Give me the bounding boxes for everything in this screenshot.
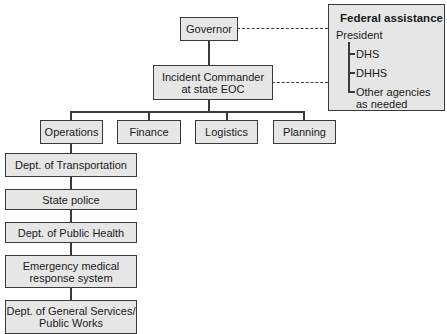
ic-label-line1: Incident Commander bbox=[162, 71, 264, 83]
federal-president: President bbox=[336, 29, 382, 41]
federal-tree-branch bbox=[348, 53, 355, 55]
dashed-link-governor-federal bbox=[237, 28, 328, 29]
unit-emergency-medical: Emergency medical response system bbox=[5, 255, 137, 288]
federal-tree-branch bbox=[348, 91, 355, 93]
unit-dept-public-health: Dept. of Public Health bbox=[5, 222, 137, 243]
unit-label: Dept. of Transportation bbox=[15, 159, 127, 171]
federal-assistance-box: Federal assistance President DHS DHHS Ot… bbox=[328, 4, 445, 111]
unit-general-services: Dept. of General Services/ Public Works bbox=[5, 300, 137, 334]
unit-label-line2: Public Works bbox=[39, 317, 103, 329]
section-label: Operations bbox=[45, 126, 99, 138]
federal-title: Federal assistance bbox=[340, 12, 443, 24]
section-finance: Finance bbox=[117, 120, 181, 144]
unit-state-police: State police bbox=[5, 189, 137, 210]
connector-sections-bus bbox=[70, 111, 304, 113]
ic-label-line2: at state EOC bbox=[182, 83, 245, 95]
federal-item-dhs: DHS bbox=[356, 48, 379, 60]
section-logistics: Logistics bbox=[195, 120, 258, 144]
unit-label: Dept. of Public Health bbox=[18, 227, 124, 239]
incident-commander-box: Incident Commander at state EOC bbox=[153, 65, 273, 100]
federal-tree-branch bbox=[348, 72, 355, 74]
unit-dept-transportation: Dept. of Transportation bbox=[5, 153, 137, 177]
connector-ic-bus bbox=[208, 99, 210, 111]
unit-label-line1: Emergency medical bbox=[23, 260, 120, 272]
federal-item-other-line2: as needed bbox=[356, 98, 407, 110]
governor-label: Governor bbox=[186, 23, 232, 35]
connector-logistics bbox=[226, 111, 228, 120]
section-planning: Planning bbox=[273, 120, 336, 144]
section-label: Planning bbox=[283, 126, 326, 138]
section-label: Finance bbox=[129, 126, 168, 138]
dashed-link-ic-federal bbox=[272, 82, 328, 83]
governor-box: Governor bbox=[180, 17, 238, 41]
federal-item-dhhs: DHHS bbox=[356, 67, 387, 79]
section-label: Logistics bbox=[205, 126, 248, 138]
unit-label-line1: Dept. of General Services/ bbox=[6, 305, 135, 317]
federal-item-other-line1: Other agencies bbox=[356, 86, 431, 98]
connector-operations bbox=[70, 111, 72, 120]
connector-finance bbox=[148, 111, 150, 120]
federal-tree-trunk bbox=[348, 42, 350, 92]
unit-label: State police bbox=[42, 194, 99, 206]
section-operations: Operations bbox=[40, 120, 103, 144]
unit-label-line2: response system bbox=[29, 272, 112, 284]
connector-governor-ic bbox=[208, 40, 210, 65]
connector-planning bbox=[303, 111, 305, 120]
